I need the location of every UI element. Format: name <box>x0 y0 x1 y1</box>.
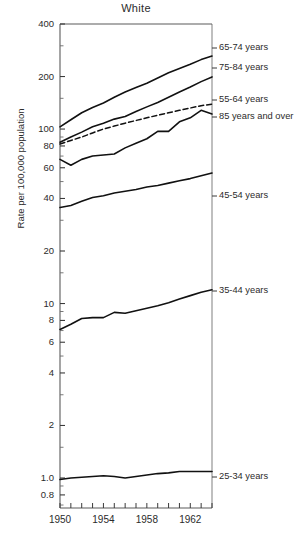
axis-frame <box>60 24 212 508</box>
x-tick-label: 1954 <box>83 514 123 525</box>
series-label-45-54-years: 45-54 years <box>219 190 268 201</box>
y-tick-label: 100 <box>20 124 54 134</box>
x-tick-label: 1958 <box>127 514 167 525</box>
y-tick-label: 1.0 <box>20 473 54 483</box>
series-label-55-64-years: 55-64 years <box>219 94 268 105</box>
series-line-25-34-years <box>60 471 212 479</box>
y-tick-label: 60 <box>20 163 54 173</box>
series-label-85-years-and-over: 85 years and over <box>219 111 293 122</box>
label-leader-ticks <box>212 48 217 477</box>
y-tick-label: 40 <box>20 193 54 203</box>
y-tick-label: 10 <box>20 299 54 309</box>
chart-figure: White Rate per 100,000 population 400200… <box>0 0 306 534</box>
series-lines <box>60 56 212 479</box>
y-tick-label: 8 <box>20 315 54 325</box>
y-tick-label: 4 <box>20 368 54 378</box>
series-label-75-84-years: 75-84 years <box>219 62 268 73</box>
series-label-25-34-years: 25-34 years <box>219 471 268 482</box>
series-line-65-74-years <box>60 56 212 127</box>
y-tick-label: 200 <box>20 72 54 82</box>
series-label-35-44-years: 35-44 years <box>219 285 268 296</box>
series-line-85-years-and-over <box>60 110 212 165</box>
series-label-65-74-years: 65-74 years <box>219 42 268 53</box>
y-tick-label: 80 <box>20 141 54 151</box>
y-tick-label: 2 <box>20 420 54 430</box>
series-line-55-64-years <box>60 104 212 144</box>
series-line-35-44-years <box>60 290 212 330</box>
y-tick-label: 0.8 <box>20 490 54 500</box>
y-tick-label: 400 <box>20 19 54 29</box>
x-tick-label: 1962 <box>170 514 210 525</box>
x-tick-label: 1950 <box>40 514 80 525</box>
x-axis-ticks <box>60 503 212 508</box>
y-tick-label: 6 <box>20 337 54 347</box>
series-line-45-54-years <box>60 173 212 208</box>
y-axis-ticks <box>60 24 65 495</box>
y-tick-label: 20 <box>20 246 54 256</box>
